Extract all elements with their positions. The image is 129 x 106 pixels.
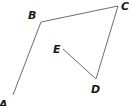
label-point-d: D	[91, 83, 100, 96]
label-point-e: E	[53, 43, 61, 56]
segment-d-e	[63, 49, 96, 79]
segment-c-d	[96, 6, 118, 79]
label-point-c: C	[121, 0, 129, 13]
label-point-b: B	[28, 9, 36, 22]
segment-a-b	[13, 22, 41, 95]
point-labels: A B C D E	[0, 0, 129, 106]
polyline-diagram: A B C D E	[0, 0, 129, 106]
label-point-a: A	[0, 98, 8, 106]
segment-b-c	[41, 6, 118, 22]
